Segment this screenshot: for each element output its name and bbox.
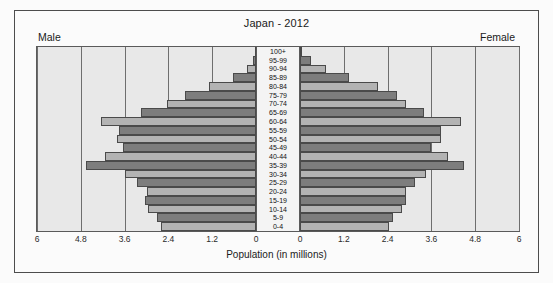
x-axis-tick-label: 6 xyxy=(35,234,40,244)
x-axis-tick-label: 2.4 xyxy=(382,234,394,244)
female-bar xyxy=(300,108,424,117)
age-group-label: 80-84 xyxy=(257,83,299,90)
gridline xyxy=(519,47,520,231)
female-bar xyxy=(300,73,349,82)
age-group-label: 20-24 xyxy=(257,188,299,195)
male-bar xyxy=(157,213,256,222)
female-bar xyxy=(300,56,311,65)
x-axis-title: Population (in millions) xyxy=(0,249,553,260)
male-bar xyxy=(161,222,256,231)
female-bar xyxy=(300,143,431,152)
x-axis-tick-label: 0 xyxy=(298,234,303,244)
age-group-label: 50-54 xyxy=(257,136,299,143)
x-axis-tick-label: 0 xyxy=(254,234,259,244)
age-group-label: 0-4 xyxy=(257,223,299,230)
age-group-label: 30-34 xyxy=(257,171,299,178)
age-group-label: 15-19 xyxy=(257,197,299,204)
age-group-label: 40-44 xyxy=(257,153,299,160)
male-bar xyxy=(145,196,256,205)
age-group-label: 90-94 xyxy=(257,65,299,72)
female-bar xyxy=(300,117,461,126)
population-pyramid-plot: 100+95-9990-9485-8980-8475-7970-7465-696… xyxy=(36,46,520,232)
age-group-label: 55-59 xyxy=(257,127,299,134)
male-bar xyxy=(147,187,257,196)
age-group-label: 95-99 xyxy=(257,57,299,64)
age-group-label: 10-14 xyxy=(257,206,299,213)
female-bar xyxy=(300,161,464,170)
female-bar xyxy=(300,178,415,187)
age-group-label: 60-64 xyxy=(257,118,299,125)
age-group-label: 65-69 xyxy=(257,109,299,116)
male-bar xyxy=(123,143,256,152)
plot-inner: 100+95-9990-9485-8980-8475-7970-7465-696… xyxy=(37,47,519,231)
male-bar xyxy=(86,161,256,170)
x-axis-tick-label: 4.8 xyxy=(75,234,87,244)
x-axis-tick-label: 3.6 xyxy=(425,234,437,244)
female-bar xyxy=(300,126,441,135)
male-bar xyxy=(233,73,256,82)
age-group-axis: 100+95-9990-9485-8980-8475-7970-7465-696… xyxy=(256,47,300,231)
x-axis-tick-label: 3.6 xyxy=(119,234,131,244)
female-bar xyxy=(300,222,389,231)
age-group-label: 100+ xyxy=(257,48,299,55)
age-group-label: 25-29 xyxy=(257,179,299,186)
female-bar xyxy=(300,152,448,161)
female-bar xyxy=(300,196,406,205)
female-bar xyxy=(300,91,397,100)
x-axis-tick-label: 2.4 xyxy=(162,234,174,244)
female-bar xyxy=(300,187,406,196)
male-bar xyxy=(125,170,256,179)
male-bar xyxy=(247,65,256,74)
male-bar xyxy=(101,117,256,126)
x-axis-tick-label: 1.2 xyxy=(338,234,350,244)
female-bar xyxy=(300,205,402,214)
x-axis-tick-label: 1.2 xyxy=(206,234,218,244)
age-group-label: 35-39 xyxy=(257,162,299,169)
age-group-label: 70-74 xyxy=(257,100,299,107)
x-axis-tick-label: 4.8 xyxy=(469,234,481,244)
male-bar xyxy=(117,135,256,144)
female-bar xyxy=(300,135,441,144)
female-bar xyxy=(300,213,393,222)
male-bar xyxy=(105,152,256,161)
male-bar xyxy=(141,108,256,117)
male-bar xyxy=(209,82,256,91)
age-group-label: 5-9 xyxy=(257,214,299,221)
female-bar xyxy=(300,170,426,179)
male-bar xyxy=(119,126,256,135)
male-bar xyxy=(137,178,256,187)
age-group-label: 85-89 xyxy=(257,74,299,81)
female-bar xyxy=(300,100,406,109)
female-bar xyxy=(300,65,326,74)
figure-canvas: Japan - 2012 Male Female 100+95-9990-948… xyxy=(0,0,553,283)
female-bar xyxy=(300,82,378,91)
x-axis-tick-label: 6 xyxy=(517,234,522,244)
age-group-label: 45-49 xyxy=(257,144,299,151)
male-side-label: Male xyxy=(38,31,61,43)
male-bar xyxy=(167,100,256,109)
male-bar xyxy=(148,205,256,214)
page-title: Japan - 2012 xyxy=(0,17,553,29)
female-bar xyxy=(300,47,302,56)
age-group-label: 75-79 xyxy=(257,92,299,99)
female-side-label: Female xyxy=(480,31,515,43)
male-bar xyxy=(185,91,256,100)
